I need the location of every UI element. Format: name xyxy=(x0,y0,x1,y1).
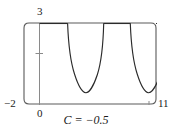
plot-area xyxy=(23,22,157,105)
y-axis-max-label: 3 xyxy=(37,6,43,17)
y-axis-min-label: −2 xyxy=(4,98,16,109)
x-axis-max-label: 11 xyxy=(158,98,169,109)
plot-svg xyxy=(23,22,157,105)
curve-well-1 xyxy=(68,24,104,93)
plot-frame-box xyxy=(24,23,156,104)
figure-caption: C = −0.5 xyxy=(0,114,172,127)
figure-container: 3 −2 0 11 C = −0.5 xyxy=(0,0,172,133)
curve-well-2 xyxy=(130,24,157,93)
